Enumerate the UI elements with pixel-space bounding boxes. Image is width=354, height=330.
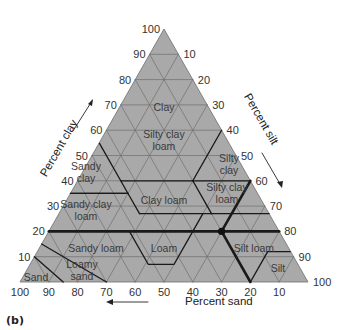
silt-arrow-head [277, 181, 283, 188]
sand-tick-label: 80 [71, 286, 83, 298]
clay-tick-label: 10 [18, 251, 30, 263]
clay-tick-label: 40 [61, 175, 73, 187]
region-label: clay [77, 172, 96, 184]
region-label: clay [220, 164, 239, 176]
region-label: Silty [219, 152, 240, 164]
sand-tick-label: 100 [11, 286, 29, 298]
region-label: Sandy clay [60, 198, 112, 210]
sand-tick-label: 60 [129, 286, 141, 298]
region-label: loam [216, 193, 239, 205]
region-label: Silt loam [234, 242, 275, 254]
clay-tick-label: 60 [90, 124, 102, 136]
panel-label: (b) [6, 314, 24, 327]
silt-tick-label: 90 [299, 251, 311, 263]
region-label: Sandy loam [68, 242, 124, 254]
sand-tick-label: 70 [100, 286, 112, 298]
region-label: Loamy [66, 258, 98, 270]
region-label: Clay loam [141, 194, 188, 206]
silt-tick-label: 10 [183, 48, 195, 60]
silt-tick-label: 20 [198, 74, 210, 86]
silt-tick-label: 70 [270, 200, 282, 212]
clay-arrow-line [73, 101, 92, 131]
clay-tick-label: 20 [33, 225, 45, 237]
region-label: Silty clay [206, 181, 248, 193]
clay-tick-label: 30 [47, 200, 59, 212]
silt-tick-label: 30 [212, 99, 224, 111]
sand-tick-label: 50 [158, 286, 170, 298]
silt-tick-label: 50 [241, 150, 253, 162]
clay-tick-label: 100 [142, 23, 160, 35]
sand-tick-label: 10 [273, 286, 285, 298]
silt-tick-label: 80 [284, 225, 296, 237]
clay-tick-label: 80 [119, 74, 131, 86]
silt-tick-label: 60 [255, 175, 267, 187]
silt-tick-label: 100 [313, 276, 331, 288]
region-label: Silt [271, 262, 286, 274]
region-label: Sandy [71, 160, 102, 172]
silt-axis-title: Percent silt [242, 91, 281, 147]
highlight-point [218, 228, 225, 235]
region-label: Silty clay [143, 128, 185, 140]
sand-arrow-head [106, 299, 113, 305]
region-label: loam [75, 210, 98, 222]
region-label: sand [71, 270, 94, 282]
clay-tick-label: 70 [105, 99, 117, 111]
sand-axis-title: Percent sand [185, 295, 253, 307]
silt-tick-label: 40 [227, 124, 239, 136]
soil-texture-triangle: 1020304050607080901001020304050607080901… [0, 0, 354, 330]
region-label: Clay [153, 101, 175, 113]
region-label: loam [153, 140, 176, 152]
sand-tick-label: 90 [43, 286, 55, 298]
clay-arrow-head [88, 99, 93, 106]
region-label: Sand [24, 271, 49, 283]
region-label: Loam [151, 242, 178, 254]
clay-tick-label: 90 [133, 48, 145, 60]
